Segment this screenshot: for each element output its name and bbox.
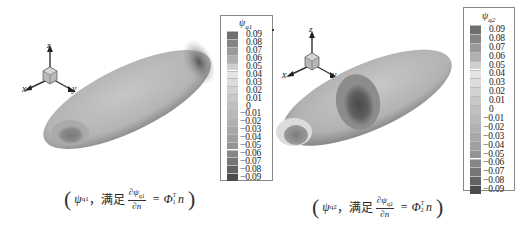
colorbar-swatch <box>227 142 238 150</box>
left-panel: z x y ψq1 <box>0 0 280 227</box>
colorbar-swatch <box>470 141 481 150</box>
colorbar-swatch <box>470 43 481 52</box>
colorbar-swatch <box>470 176 481 185</box>
colorbar-tick-label: −0.09 <box>483 185 504 194</box>
colorbar-swatch <box>470 114 481 123</box>
colorbar-q2: ψq2 0.090.080.070.060.050.040.030.020.01… <box>463 7 515 191</box>
ellipsoid-surface-plot <box>30 40 220 150</box>
colorbar-level: −0.09 <box>227 173 261 181</box>
caption-left: ( ψq1 ，满足 ∂ψq1 ∂n = Φ T1 n ) <box>64 186 195 212</box>
colorbar-swatch <box>470 167 481 176</box>
colorbar-swatch <box>470 34 481 43</box>
colorbar-level: 0.01 <box>227 94 262 102</box>
colorbar-swatch <box>227 173 238 181</box>
colorbar-swatch <box>227 102 238 110</box>
colorbar-swatch <box>227 157 238 165</box>
colorbar-swatch <box>470 25 481 34</box>
colorbar-swatch <box>470 105 481 114</box>
colorbar-level: −0.09 <box>470 185 504 194</box>
right-panel: z x y ψq2 <box>262 0 526 227</box>
colorbar-swatch <box>470 61 481 70</box>
colorbar-swatch <box>227 110 238 118</box>
axis-label-x: x <box>22 83 26 94</box>
colorbar-swatch <box>227 94 238 102</box>
colorbar-tick-label: −0.09 <box>240 173 261 182</box>
colorbar-swatch <box>470 78 481 87</box>
caption-right: ( ψq2 ，满足 ∂ψq2 ∂n = Φ T2 n ) <box>312 194 443 220</box>
colorbar-swatch <box>470 70 481 79</box>
axis-label-z: z <box>309 24 313 34</box>
colorbar-swatch <box>470 150 481 159</box>
colorbar-swatch <box>470 185 481 194</box>
colorbar-swatch <box>227 150 238 158</box>
colorbar-swatch <box>227 71 238 79</box>
colorbar-swatch <box>227 165 238 173</box>
colorbar-level: 0.01 <box>470 96 505 105</box>
colorbar-swatch <box>227 126 238 134</box>
stray-dot <box>272 29 274 31</box>
colorbar-swatch <box>470 87 481 96</box>
colorbar-swatch <box>227 118 238 126</box>
colorbar-swatch <box>470 52 481 61</box>
colorbar-swatch <box>227 86 238 94</box>
ellipsoid-surface-plot <box>270 38 460 150</box>
partial-derivative: ∂ψq1 ∂n <box>128 187 146 212</box>
colorbar-title: ψq2 <box>482 10 495 24</box>
colorbar-swatch <box>227 134 238 142</box>
colorbar-swatch <box>227 39 238 47</box>
colorbar-swatch <box>227 78 238 86</box>
colorbar-swatch <box>227 31 238 39</box>
colorbar-swatch <box>227 55 238 63</box>
colorbar-swatch <box>227 63 238 71</box>
colorbar-swatch <box>470 132 481 141</box>
colorbar-swatch <box>227 47 238 55</box>
colorbar-swatch <box>470 96 481 105</box>
colorbar-swatch <box>470 159 481 168</box>
colorbar-swatch <box>470 123 481 132</box>
partial-derivative: ∂ψq2 ∂n <box>376 195 394 220</box>
